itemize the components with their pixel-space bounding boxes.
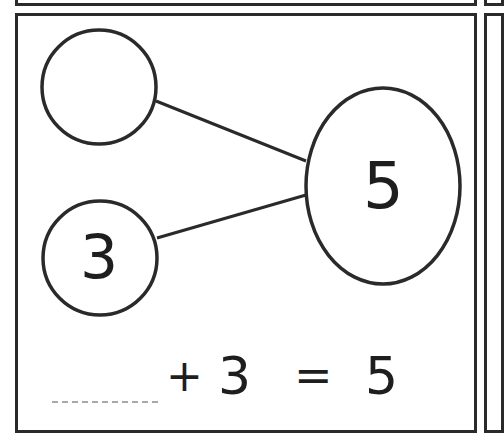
whole-value: 5 <box>363 154 404 218</box>
addend-value: 3 <box>218 350 251 402</box>
connector-line-bottom <box>157 195 306 238</box>
equals-sign: = <box>294 352 333 398</box>
sum-value: 5 <box>365 350 398 402</box>
connector-line-top <box>156 101 306 161</box>
answer-blank[interactable] <box>52 401 158 403</box>
part-b-value: 3 <box>80 227 118 287</box>
part-circle-top[interactable] <box>42 30 156 144</box>
plus-sign: + <box>166 354 203 398</box>
